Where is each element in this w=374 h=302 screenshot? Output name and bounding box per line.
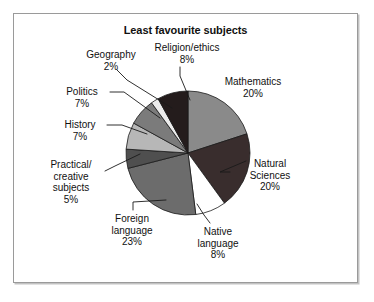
pie-label-foreign-language-name-line1: Foreign xyxy=(96,213,168,225)
pie-label-native-language-value: 8% xyxy=(182,249,254,261)
pie-label-mathematics-value: 20% xyxy=(210,88,296,100)
pie-label-natural-sciences-name-line1: Natural xyxy=(232,158,308,170)
pie-label-natural-sciences-name-line2: Sciences xyxy=(232,170,308,182)
pie-label-practical-creative-subjects: Practical/ creative subjects 5% xyxy=(34,159,108,205)
pie-label-practical-creative-subjects-name-line1: Practical/ xyxy=(34,159,108,171)
pie-label-politics: Politics 7% xyxy=(54,86,110,109)
pie-label-practical-creative-subjects-name-line3: subjects xyxy=(34,182,108,194)
pie-label-native-language-name-line1: Native xyxy=(182,226,254,238)
pie-slice-history[interactable] xyxy=(126,123,188,153)
pie-slice-practical-creative-subjects[interactable] xyxy=(126,149,188,168)
pie-label-practical-creative-subjects-value: 5% xyxy=(34,194,108,206)
leader-line-politics xyxy=(110,92,160,118)
pie-label-natural-sciences: Natural Sciences 20% xyxy=(232,158,308,193)
chart-frame: Least favourite subjects xyxy=(13,13,358,283)
pie-label-history-value: 7% xyxy=(52,131,108,143)
leader-line-native xyxy=(197,204,210,223)
pie-label-native-language-name-line2: language xyxy=(182,238,254,250)
pie-label-natural-sciences-value: 20% xyxy=(232,181,308,193)
pie-label-geography: Geography 2% xyxy=(74,49,148,72)
pie-label-geography-value: 2% xyxy=(74,61,148,73)
pie-slice-native-language[interactable] xyxy=(188,153,224,215)
pie-slice-geography[interactable] xyxy=(152,99,188,153)
pie-label-religion-ethics-name: Religion/ethics xyxy=(144,42,230,54)
leader-line-practical xyxy=(105,154,140,171)
figure-root: Least favourite subjects xyxy=(0,0,374,302)
chart-title: Least favourite subjects xyxy=(14,24,357,36)
leader-line-religion xyxy=(180,67,190,100)
pie-slice-mathematics[interactable] xyxy=(188,91,247,153)
pie-label-history-name: History xyxy=(52,119,108,131)
pie-label-native-language: Native language 8% xyxy=(182,226,254,261)
pie-slice-religion-ethics[interactable] xyxy=(158,91,188,153)
pie-label-mathematics: Mathematics 20% xyxy=(210,76,296,99)
pie-label-foreign-language-value: 23% xyxy=(96,236,168,248)
pie-label-practical-creative-subjects-name-line2: creative xyxy=(34,171,108,183)
pie-label-politics-value: 7% xyxy=(54,98,110,110)
pie-label-mathematics-name: Mathematics xyxy=(210,76,296,88)
pie-label-foreign-language: Foreign language 23% xyxy=(96,213,168,248)
pie-slice-foreign-language[interactable] xyxy=(128,153,196,215)
pie-slice-politics[interactable] xyxy=(134,103,188,153)
pie-label-religion-ethics: Religion/ethics 8% xyxy=(144,42,230,65)
pie-slices xyxy=(126,91,250,215)
leader-line-geography xyxy=(117,70,172,108)
pie-label-politics-name: Politics xyxy=(54,86,110,98)
leader-line-history xyxy=(107,125,147,134)
pie-label-history: History 7% xyxy=(52,119,108,142)
pie-label-foreign-language-name-line2: language xyxy=(96,225,168,237)
pie-label-religion-ethics-value: 8% xyxy=(144,54,230,66)
pie-label-geography-name: Geography xyxy=(74,49,148,61)
leader-line-foreign xyxy=(133,200,166,210)
